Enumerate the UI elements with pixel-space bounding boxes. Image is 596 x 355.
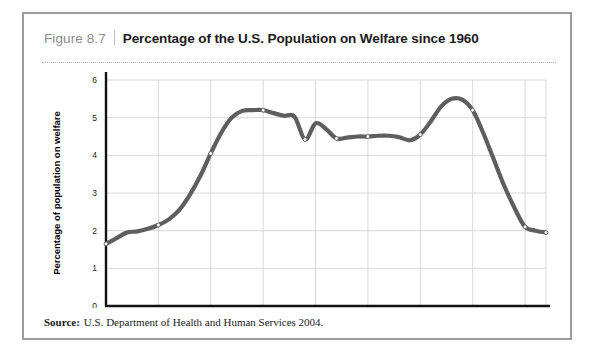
svg-text:0: 0 [92,301,97,308]
y-axis-label: Percentage of population on welfare [51,111,62,275]
svg-text:1: 1 [92,263,97,273]
data-series-line [106,98,546,244]
svg-text:5: 5 [92,113,97,123]
source-text: U.S. Department of Health and Human Serv… [84,316,324,328]
title-divider [114,30,115,45]
y-tick-labels: 0123456 [92,75,97,308]
svg-text:Percentage of population on we: Percentage of population on welfare [51,111,62,275]
svg-text:4: 4 [92,150,97,160]
source-note: Source:U.S. Department of Health and Hum… [44,316,323,328]
svg-text:3: 3 [92,188,97,198]
figure-title-row: Figure 8.7 Percentage of the U.S. Popula… [44,28,479,46]
source-label: Source: [44,316,80,328]
svg-text:6: 6 [92,75,97,85]
chart-area: 0123456 19601965197019751980198519901995… [24,58,570,308]
svg-text:2: 2 [92,226,97,236]
line-chart: 0123456 19601965197019751980198519901995… [24,58,570,308]
figure-card: Figure 8.7 Percentage of the U.S. Popula… [22,12,572,340]
figure-number: Figure 8.7 [44,31,106,46]
chart-gridlines [106,80,546,306]
page-title: Percentage of the U.S. Population on Wel… [123,31,479,46]
